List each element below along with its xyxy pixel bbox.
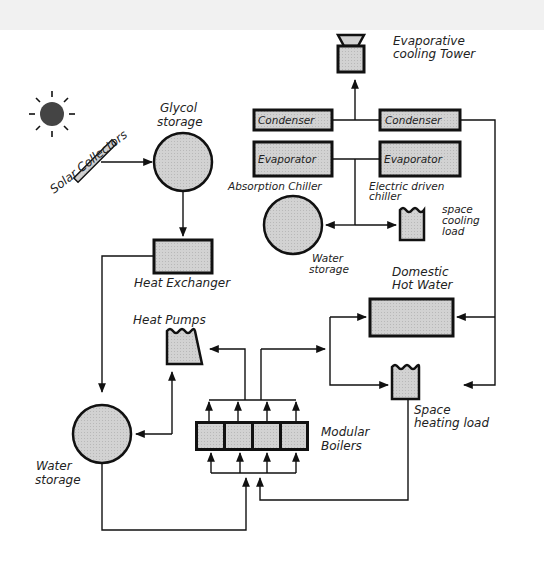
condenser-left: Condenser — [254, 110, 332, 130]
dhw-label-2: Hot Water — [392, 278, 454, 292]
condenser-left-label: Condenser — [258, 114, 315, 126]
heat-exchanger: Heat Exchanger — [134, 240, 231, 290]
condenser-right: Condenser — [380, 110, 460, 130]
boilers-to-heat-pumps-arrow — [210, 349, 245, 400]
water-storage-heating-label-1: Water — [36, 459, 73, 473]
water-storage-heating-tank: Water storage — [35, 405, 131, 487]
glycol-storage-label-1: Glycol — [160, 101, 198, 115]
evaporative-cooling-tower: Evaporative cooling Tower — [338, 34, 476, 72]
heat-pumps: Heat Pumps — [133, 313, 206, 364]
modular-boilers-label-1: Modular — [321, 425, 371, 439]
cooling-tower-label-1: Evaporative — [393, 34, 465, 48]
cooling-tower-label-2: cooling Tower — [393, 47, 476, 61]
water-storage-cooling-label-2: storage — [309, 263, 349, 275]
top-band — [0, 0, 544, 30]
glycol-storage-label-2: storage — [157, 115, 203, 129]
space-cooling-label-3: load — [442, 225, 465, 237]
modular-boilers-label-2: Boilers — [321, 439, 362, 453]
dhw-label-1: Domestic — [392, 265, 449, 279]
heat-exchanger-label: Heat Exchanger — [134, 276, 231, 290]
heat-pumps-label: Heat Pumps — [133, 313, 206, 327]
glycol-storage-tank: Glycol storage — [154, 101, 212, 191]
water-storage-cooling-tank: Water storage — [264, 196, 349, 275]
sun-icon — [29, 91, 75, 137]
evaporator-right-label: Evaporator — [384, 153, 443, 165]
evaporator-right: Evaporator — [380, 142, 460, 176]
evaporator-left-label: Evaporator — [258, 153, 317, 165]
condenser-to-heating-line — [460, 120, 495, 385]
absorption-chiller-label: Absorption Chiller — [227, 180, 322, 192]
water-storage-heating-label-2: storage — [35, 473, 81, 487]
space-cooling-load: space cooling load — [400, 203, 480, 240]
space-heating-label-1: Space — [414, 403, 451, 417]
modular-boilers: Modular Boilers — [195, 421, 371, 453]
energy-system-diagram: Solar Collectors Glycol storage Heat Exc… — [0, 0, 544, 563]
evaporator-left: Evaporator — [254, 142, 332, 176]
electric-chiller-label-2: chiller — [369, 190, 402, 202]
condenser-right-label: Condenser — [385, 114, 442, 126]
space-heating-label-2: heating load — [414, 416, 489, 430]
domestic-hot-water: Domestic Hot Water — [370, 265, 454, 336]
space-heating-load: Space heating load — [392, 365, 489, 430]
